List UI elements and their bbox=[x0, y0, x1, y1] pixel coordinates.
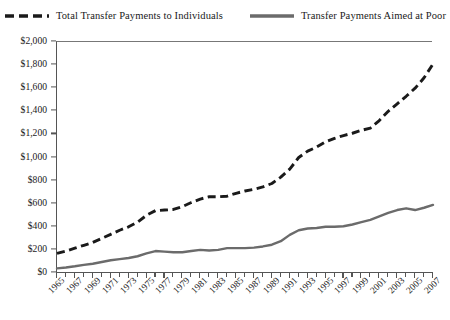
x-axis-label: 1975 bbox=[136, 276, 156, 296]
x-axis-label: 1985 bbox=[226, 276, 246, 296]
series-canvas bbox=[57, 42, 433, 273]
x-axis-label: 1987 bbox=[244, 276, 264, 296]
y-axis-label: $800 bbox=[28, 175, 47, 185]
y-axis-label: $1,800 bbox=[21, 59, 47, 69]
x-axis-label: 1999 bbox=[351, 276, 371, 296]
x-axis-label: 1993 bbox=[298, 276, 318, 296]
solid-line-swatch bbox=[249, 11, 295, 21]
series-line-total bbox=[57, 64, 433, 253]
series-line-poor bbox=[57, 205, 433, 269]
y-axis-label: $2,000 bbox=[21, 36, 47, 46]
y-axis-label: $1,600 bbox=[21, 82, 47, 92]
x-axis-label: 2003 bbox=[387, 276, 407, 296]
x-axis-label: 1991 bbox=[280, 276, 300, 296]
x-axis-label: 1979 bbox=[172, 276, 192, 296]
x-axis-label: 1973 bbox=[118, 276, 138, 296]
legend-item-poor: Transfer Payments Aimed at Poor bbox=[249, 10, 446, 21]
x-axis-label: 1983 bbox=[208, 276, 228, 296]
x-axis-labels: 1965196719691971197319751977197919811983… bbox=[0, 276, 450, 320]
legend-label-total: Total Transfer Payments to Individuals bbox=[56, 10, 223, 21]
x-axis-label: 1971 bbox=[101, 276, 121, 296]
y-axis-label: $400 bbox=[28, 221, 47, 231]
y-axis-label: $1,400 bbox=[21, 106, 47, 116]
x-axis-label: 2001 bbox=[369, 276, 389, 296]
x-axis-label: 1965 bbox=[47, 276, 67, 296]
line-chart: Total Transfer Payments to Individuals T… bbox=[0, 0, 450, 320]
y-axis-label: $1,200 bbox=[21, 129, 47, 139]
y-axis-label: $1,000 bbox=[21, 152, 47, 162]
plot-area bbox=[56, 41, 432, 272]
x-axis-label: 1981 bbox=[190, 276, 210, 296]
x-axis-label: 1967 bbox=[65, 276, 85, 296]
x-axis-label: 2005 bbox=[405, 276, 425, 296]
x-axis-label: 1977 bbox=[154, 276, 174, 296]
chart-legend: Total Transfer Payments to Individuals T… bbox=[0, 10, 450, 21]
x-axis-label: 1995 bbox=[315, 276, 335, 296]
y-axis-label: $600 bbox=[28, 198, 47, 208]
x-axis-label: 1989 bbox=[262, 276, 282, 296]
x-axis-label: 1997 bbox=[333, 276, 353, 296]
x-axis-label: 1969 bbox=[83, 276, 103, 296]
legend-label-poor: Transfer Payments Aimed at Poor bbox=[301, 10, 446, 21]
x-axis-label: 2007 bbox=[423, 276, 443, 296]
y-axis-label: $200 bbox=[28, 244, 47, 254]
